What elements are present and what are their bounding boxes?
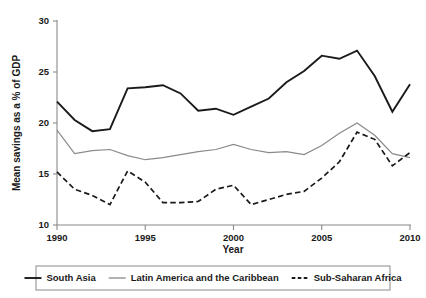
y-axis-tick-label: 20 bbox=[38, 117, 49, 128]
x-axis-tick-label: 1990 bbox=[46, 232, 67, 243]
legend-label: Latin America and the Caribbean bbox=[131, 272, 279, 283]
legend-item-latin-america-and-the-caribbean[interactable]: Latin America and the Caribbean bbox=[109, 272, 279, 283]
x-axis-tick-label: 2005 bbox=[311, 232, 333, 243]
y-axis-title: Mean savings as a % of GDP bbox=[11, 55, 22, 191]
legend-label: South Asia bbox=[46, 272, 96, 283]
y-axis-tick-label: 10 bbox=[38, 219, 49, 230]
line-chart: 1015202530 19901995200020052010 Mean sav… bbox=[0, 0, 426, 298]
legend-label: Sub-Saharan Africa bbox=[314, 272, 403, 283]
y-axis-tick-label: 30 bbox=[38, 15, 49, 26]
chart-figure: 1015202530 19901995200020052010 Mean sav… bbox=[0, 0, 426, 298]
x-axis-title: Year bbox=[222, 244, 243, 255]
plot-background bbox=[0, 0, 426, 298]
y-axis-tick-label: 25 bbox=[38, 66, 49, 77]
y-axis-tick-label: 15 bbox=[38, 168, 49, 179]
x-axis-tick-label: 2000 bbox=[223, 232, 244, 243]
x-axis-tick-label: 2010 bbox=[399, 232, 420, 243]
x-axis-tick-label: 1995 bbox=[135, 232, 157, 243]
